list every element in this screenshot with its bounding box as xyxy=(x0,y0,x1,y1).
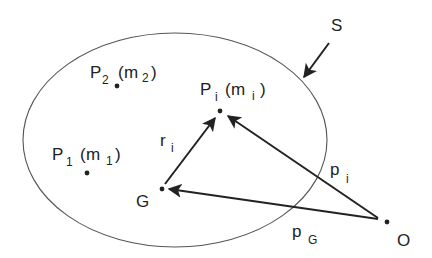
centroid-g-dot xyxy=(160,187,165,192)
svg-text:p: p xyxy=(292,222,301,241)
svg-text:2: 2 xyxy=(102,73,109,87)
point-pi-dot xyxy=(218,109,223,114)
svg-text:): ) xyxy=(151,63,157,82)
point-pi-label: P i ( m i ) xyxy=(200,80,266,104)
svg-text:1: 1 xyxy=(106,154,113,168)
set-pointer-arrow xyxy=(304,43,329,77)
svg-text:p: p xyxy=(330,160,339,179)
vector-r-i-label: r i xyxy=(160,131,174,155)
svg-text:r: r xyxy=(160,131,166,150)
svg-text:i: i xyxy=(252,89,255,103)
svg-text:m: m xyxy=(124,63,138,82)
point-p2-label: P 2 ( m 2 ) xyxy=(90,63,157,87)
origin-o-dot xyxy=(385,220,390,225)
vector-p-i xyxy=(228,116,378,218)
svg-text:i: i xyxy=(171,141,174,155)
svg-text:): ) xyxy=(115,145,121,164)
svg-text:2: 2 xyxy=(142,71,149,85)
region-s-ellipse xyxy=(23,33,327,247)
svg-text:i: i xyxy=(215,90,218,104)
vector-p-g-label: p G xyxy=(292,222,317,247)
point-p1-label: P 1 ( m 1 ) xyxy=(52,145,121,169)
svg-text:G: G xyxy=(308,233,317,247)
set-label-s: S xyxy=(331,16,342,35)
svg-text:m: m xyxy=(231,80,245,99)
origin-o-label: O xyxy=(397,231,410,250)
vector-p-g xyxy=(169,189,378,219)
svg-text:m: m xyxy=(86,145,100,164)
svg-text:i: i xyxy=(346,172,349,186)
svg-text:): ) xyxy=(260,80,266,99)
centroid-g-label: G xyxy=(136,192,149,211)
diagram-canvas: S P 2 ( m 2 ) P i ( m i ) P 1 ( m 1 ) G … xyxy=(0,0,432,258)
svg-text:1: 1 xyxy=(66,155,73,169)
svg-text:P: P xyxy=(90,63,101,82)
point-p2-dot xyxy=(115,84,120,89)
svg-text:P: P xyxy=(52,145,63,164)
svg-text:P: P xyxy=(200,80,211,99)
point-p1-dot xyxy=(85,171,90,176)
vector-p-i-label: p i xyxy=(330,160,349,186)
